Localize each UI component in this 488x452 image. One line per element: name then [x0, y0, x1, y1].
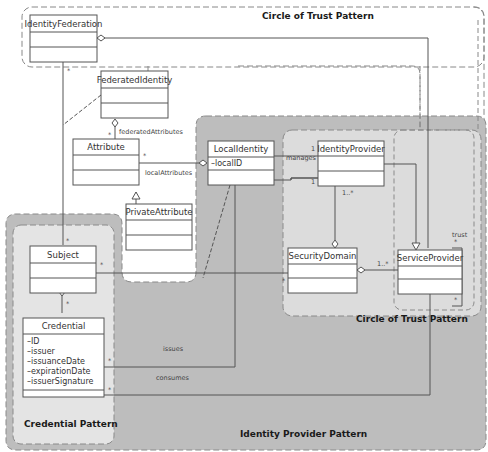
class-identity-federation[interactable]: IdentityFederation — [25, 15, 103, 62]
class-attribute: –ID — [27, 337, 40, 346]
class-attribute: –localID — [211, 159, 242, 168]
class-federated-identity[interactable]: FederatedIdentity — [97, 71, 173, 118]
multiplicity: 1 — [311, 178, 315, 186]
class-identity-provider[interactable]: IdentityProvider — [317, 141, 385, 186]
class-name: SecurityDomain — [289, 251, 357, 261]
class-name: Credential — [42, 321, 86, 331]
region-title-credential: Credential Pattern — [24, 419, 118, 429]
class-attribute: –issuer — [27, 347, 56, 356]
assoc-label-federated-attributes: federatedAttributes — [119, 128, 183, 136]
class-name: IdentityProvider — [317, 144, 385, 154]
multiplicity: * — [108, 131, 112, 139]
region-title-identity-provider: Identity Provider Pattern — [240, 429, 367, 439]
multiplicity: * — [143, 152, 147, 160]
class-subject[interactable]: Subject — [30, 246, 96, 293]
assoc-label-issues: issues — [163, 345, 184, 353]
multiplicity: 1..* — [377, 260, 389, 268]
class-name: Attribute — [87, 142, 125, 152]
class-private-attribute[interactable]: PrivateAttribute — [125, 204, 192, 250]
class-attribute: –expirationDate — [27, 367, 91, 376]
multiplicity: * — [67, 67, 71, 75]
class-attribute[interactable]: Attribute — [73, 139, 139, 185]
class-name: FederatedIdentity — [97, 75, 173, 85]
assoc-label-manages: manages — [286, 154, 317, 162]
class-attribute: –issuanceDate — [27, 357, 85, 366]
uml-diagram: Circle of Trust Pattern Circle of Trust … — [0, 0, 488, 452]
multiplicity: 1..* — [342, 189, 354, 197]
class-local-identity[interactable]: LocalIdentity –localID — [208, 141, 274, 185]
assoc-label-consumes: consumes — [156, 374, 190, 382]
class-name: IdentityFederation — [25, 19, 103, 29]
class-name: LocalIdentity — [214, 144, 269, 154]
aggregation-diamond — [112, 119, 118, 127]
class-name: Subject — [47, 250, 79, 260]
region-title-circle-of-trust-top: Circle of Trust Pattern — [262, 11, 374, 21]
region-title-circle-of-trust-inner: Circle of Trust Pattern — [356, 314, 468, 324]
class-name: ServiceProvider — [397, 253, 464, 263]
multiplicity: 1 — [311, 145, 315, 153]
class-credential[interactable]: Credential –ID –issuer –issuanceDate –ex… — [23, 318, 104, 397]
class-name: PrivateAttribute — [125, 207, 192, 217]
assoc-label-local-attributes: localAttributes — [145, 169, 193, 177]
generalization-arrow — [132, 192, 140, 199]
class-attribute: –issuerSignature — [27, 377, 94, 386]
class-security-domain[interactable]: SecurityDomain — [288, 248, 357, 293]
class-service-provider[interactable]: ServiceProvider — [397, 250, 464, 294]
